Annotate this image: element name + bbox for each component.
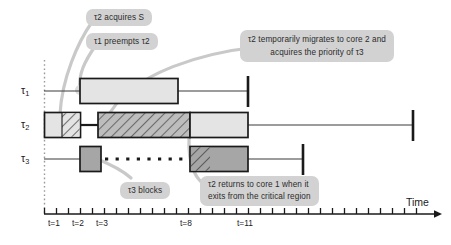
callout-tau2-migrates: τ2 temporarily migrates to core 2 and ac…	[240, 30, 394, 62]
schedule-figure: τ1 τ2 τ3 τ2 acquires S τ1 preempts τ2 τ2…	[0, 0, 451, 245]
tick-label-t2: t=2	[72, 218, 84, 228]
tau2-seg-critical-2	[98, 113, 190, 138]
time-axis	[44, 208, 442, 218]
tau3-exec-bar-1	[80, 147, 101, 172]
time-axis-ticks	[45, 208, 417, 214]
time-axis-arrowhead	[434, 210, 442, 218]
tau1-exec-bar	[80, 79, 178, 104]
row-label-tau3: τ3	[21, 152, 29, 166]
callout-tau2-returns-line1: τ2 returns to core 1 when it	[208, 179, 311, 191]
row-tau2	[44, 110, 413, 141]
row-label-tau2-text: τ2	[21, 118, 29, 130]
row-label-tau3-text: τ3	[21, 152, 29, 164]
row-tau3	[44, 144, 303, 175]
tick-label-t1: t=1	[48, 218, 60, 228]
callout-tau1-preempts-tau2-line1: τ1 preempts τ2	[94, 36, 150, 47]
row-label-tau2: τ2	[21, 118, 29, 132]
callout-tau3-blocks-line1: τ3 blocks	[128, 185, 162, 196]
callout-tau2-returns: τ2 returns to core 1 when it exits from …	[200, 176, 319, 206]
callout-tau3-blocks: τ3 blocks	[120, 182, 170, 199]
callout-tau2-returns-line2: exits from the critical region	[208, 191, 311, 203]
tick-label-t3: t=3	[96, 218, 108, 228]
row-label-tau1-text: τ1	[21, 84, 29, 96]
tau3-seg-critical	[191, 147, 210, 170]
callout-tau1-preempts-tau2: τ1 preempts τ2	[86, 33, 158, 50]
callout-tau2-migrates-line2: acquires the priority of τ3	[248, 46, 386, 59]
tau2-seg-normal-2	[190, 113, 248, 138]
callout-tau2-acquires-s-line1: τ2 acquires S	[94, 12, 144, 23]
tick-label-t11: t=11	[237, 218, 253, 228]
callout-tau2-migrates-line1: τ2 temporarily migrates to core 2 and	[248, 33, 386, 46]
tick-label-t8: t=8	[180, 218, 192, 228]
time-axis-label: Time	[406, 196, 429, 208]
tau2-seg-critical-1	[62, 113, 80, 136]
callout-tau2-acquires-s: τ2 acquires S	[86, 9, 152, 26]
row-tau1	[44, 76, 248, 107]
row-label-tau1: τ1	[21, 84, 29, 98]
